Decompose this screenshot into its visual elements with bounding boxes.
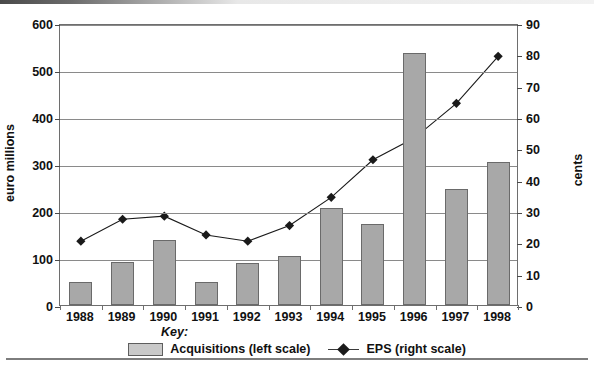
x-axis-tick (102, 305, 103, 310)
gridline (60, 25, 517, 26)
right-axis-tick-label: 60 (526, 112, 540, 126)
left-axis-tick (55, 25, 60, 26)
bar-1988 (69, 282, 92, 305)
bar-1994 (320, 208, 343, 305)
right-axis-tick-label: 70 (526, 81, 540, 95)
legend-label-eps: EPS (right scale) (366, 342, 465, 356)
bar-swatch-icon (128, 343, 163, 356)
left-axis-tick-label: 500 (32, 65, 53, 79)
x-axis-tick (310, 305, 311, 310)
x-axis-tick (60, 305, 61, 310)
right-axis-tick-label: 30 (526, 206, 540, 220)
right-axis-tick (517, 25, 522, 26)
bar-1990 (153, 240, 176, 305)
right-axis-tick-label: 40 (526, 175, 540, 189)
right-axis-title: cents (571, 154, 585, 187)
legend-key-label: Key: (161, 325, 188, 339)
bar-1997 (445, 189, 468, 305)
bar-1996 (403, 53, 426, 305)
right-axis-tick (517, 182, 522, 183)
right-axis-tick-label: 10 (526, 269, 540, 283)
right-axis-tick-label: 20 (526, 237, 540, 251)
right-axis-tick-label: 80 (526, 49, 540, 63)
left-axis-title: euro millions (3, 124, 17, 202)
x-axis-tick (143, 305, 144, 310)
left-axis-tick (55, 213, 60, 214)
bar-1991 (195, 282, 218, 305)
legend-label-acquisitions: Acquisitions (left scale) (170, 342, 310, 356)
x-axis-label-1995: 1995 (358, 310, 386, 324)
x-axis-label-1988: 1988 (66, 310, 94, 324)
right-axis-tick (517, 56, 522, 57)
eps-marker-1993 (285, 221, 294, 230)
right-axis-tick (517, 213, 522, 214)
x-axis-label-1990: 1990 (149, 310, 177, 324)
chart-legend: Acquisitions (left scale) EPS (right sca… (0, 342, 594, 356)
left-axis-tick-label: 0 (46, 300, 53, 314)
chart-figure: euro millions cents 01002003004005006000… (0, 0, 594, 374)
eps-marker-1989 (118, 215, 127, 224)
legend-item-acquisitions: Acquisitions (left scale) (128, 342, 310, 356)
x-axis-label-1992: 1992 (233, 310, 261, 324)
x-axis-tick (477, 305, 478, 310)
x-axis-tick (185, 305, 186, 310)
x-axis-label-1998: 1998 (483, 310, 511, 324)
gridline (60, 72, 517, 73)
right-axis-tick (517, 88, 522, 89)
eps-marker-1988 (76, 237, 85, 246)
gridline (60, 119, 517, 120)
x-axis-tick (518, 305, 519, 310)
bottom-page-rule (6, 358, 588, 360)
gridline (60, 166, 517, 167)
bar-1992 (236, 263, 259, 305)
x-axis-tick (436, 305, 437, 310)
x-axis-tick (352, 305, 353, 310)
left-axis-tick (55, 260, 60, 261)
left-axis-tick (55, 119, 60, 120)
right-axis-tick (517, 150, 522, 151)
left-axis-tick-label: 600 (32, 18, 53, 32)
left-axis-tick-label: 400 (32, 112, 53, 126)
right-axis-tick (517, 119, 522, 120)
left-axis-tick-label: 200 (32, 206, 53, 220)
line-diamond-marker-icon (328, 344, 359, 355)
eps-marker-1991 (201, 230, 210, 239)
left-axis-tick-label: 300 (32, 159, 53, 173)
x-axis-tick (269, 305, 270, 310)
x-axis-label-1996: 1996 (400, 310, 428, 324)
bar-1989 (111, 262, 134, 305)
eps-marker-1992 (243, 237, 252, 246)
x-axis-label-1991: 1991 (191, 310, 219, 324)
x-axis-tick (227, 305, 228, 310)
x-axis-label-1993: 1993 (275, 310, 303, 324)
x-axis-label-1997: 1997 (442, 310, 470, 324)
x-axis-tick (394, 305, 395, 310)
x-axis-label-1989: 1989 (108, 310, 136, 324)
right-axis-tick-label: 0 (526, 300, 533, 314)
legend-item-eps: EPS (right scale) (328, 342, 465, 356)
right-axis-tick-label: 50 (526, 143, 540, 157)
right-axis-tick (517, 276, 522, 277)
right-axis-tick-label: 90 (526, 18, 540, 32)
left-axis-tick (55, 72, 60, 73)
bar-1995 (361, 224, 384, 305)
bar-1993 (278, 256, 301, 305)
left-axis-tick-label: 100 (32, 253, 53, 267)
left-axis-tick (55, 166, 60, 167)
right-axis-tick (517, 244, 522, 245)
plot-area: 01002003004005006000102030405060708090 (59, 24, 518, 306)
x-axis-label-1994: 1994 (316, 310, 344, 324)
bar-1998 (487, 162, 510, 305)
